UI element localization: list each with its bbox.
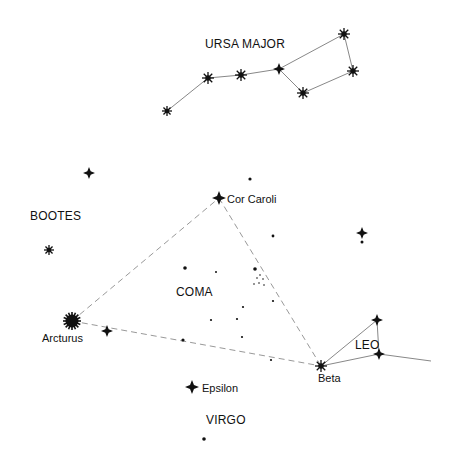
star-dot — [272, 300, 274, 302]
label-arcturus: Arcturus — [42, 332, 83, 344]
star-burst-icon — [297, 87, 309, 99]
star-dot — [258, 282, 260, 284]
star-dot — [262, 278, 264, 280]
star-burst-icon — [202, 72, 214, 84]
star-cross-icon — [371, 314, 383, 326]
star-dot — [181, 338, 184, 341]
star-beta-icon — [315, 360, 327, 372]
star-dot — [259, 274, 261, 276]
star-dot — [202, 437, 206, 441]
star-burst-icon — [44, 245, 54, 255]
star-chart: URSA MAJOR BOOTES COMA LEO VIRGO Cor Car… — [0, 0, 454, 462]
label-beta: Beta — [318, 372, 342, 384]
star-dot — [183, 266, 187, 270]
label-bootes: BOOTES — [30, 209, 81, 223]
star-cor-caroli-icon — [212, 191, 226, 205]
label-epsilon: Epsilon — [202, 382, 238, 394]
star-dot — [253, 267, 257, 271]
star-dot — [256, 277, 258, 279]
label-virgo: VIRGO — [206, 413, 246, 427]
connector-line — [219, 198, 321, 366]
connector-line — [241, 69, 279, 75]
connector-line — [72, 321, 321, 366]
connector-line — [379, 354, 431, 361]
star-dot — [248, 177, 251, 180]
connector-line — [303, 71, 353, 93]
star-dot — [361, 241, 364, 244]
star-arcturus-icon — [63, 312, 81, 330]
star-cross-icon — [83, 167, 95, 179]
star-dot — [270, 359, 272, 361]
label-coma: COMA — [176, 285, 213, 299]
star-dot — [263, 284, 265, 286]
label-leo: LEO — [355, 338, 380, 352]
star-dot — [236, 318, 238, 320]
connector-line — [279, 34, 344, 69]
connector-line — [72, 198, 219, 321]
star-dot — [215, 271, 217, 273]
label-ursa-major: URSA MAJOR — [205, 37, 285, 51]
star-dot — [210, 319, 212, 321]
constellation-lines — [167, 34, 431, 366]
star-dot — [242, 306, 244, 308]
label-cor-caroli: Cor Caroli — [227, 193, 277, 205]
star-cross-icon — [356, 227, 368, 239]
star-burst-icon — [338, 28, 350, 40]
connector-line — [167, 78, 208, 111]
asterism-dashed-lines — [72, 198, 321, 366]
connector-line — [321, 354, 379, 366]
star-dot — [253, 283, 255, 285]
star-dot — [272, 235, 275, 238]
star-burst-icon — [162, 106, 172, 116]
star-dot — [241, 336, 243, 338]
star-epsilon-icon — [185, 380, 199, 394]
connector-line — [344, 34, 353, 71]
constellation-labels: URSA MAJOR BOOTES COMA LEO VIRGO — [30, 37, 380, 427]
star-burst-icon — [347, 65, 359, 77]
star-burst-icon — [235, 69, 247, 81]
faint-stars — [181, 177, 363, 440]
